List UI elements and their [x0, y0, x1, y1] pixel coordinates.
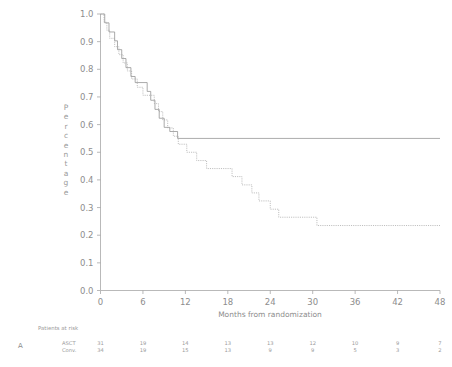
- x-tick-label: 12: [180, 297, 191, 307]
- risk-table-cell: 13: [225, 347, 232, 353]
- risk-table-row-labels: ASCTConv.: [62, 340, 77, 353]
- y-axis-title-char: e: [64, 112, 69, 121]
- y-axis-title-char: P: [64, 103, 69, 112]
- y-tick-label: 0.7: [80, 92, 94, 102]
- figure-root: Percentage 0.00.10.20.30.40.50.60.70.80.…: [0, 0, 452, 367]
- risk-table-cell: 19: [140, 340, 147, 346]
- risk-table-heading: Patients at risk: [38, 325, 79, 331]
- y-tick-label: 0.5: [80, 147, 94, 157]
- risk-table-cell: 9: [396, 340, 399, 346]
- risk-table-cell: 7: [438, 340, 441, 346]
- risk-table-cell: 19: [140, 347, 147, 353]
- y-tick-label: 0.8: [80, 64, 94, 74]
- risk-table-cell: 15: [182, 347, 189, 353]
- y-tick-label: 1.0: [80, 9, 94, 19]
- y-axis-title-char: r: [64, 122, 68, 131]
- kaplan-meier-chart: Percentage 0.00.10.20.30.40.50.60.70.80.…: [0, 0, 452, 367]
- x-tick-label: 24: [265, 297, 276, 307]
- risk-table-cell: 10: [352, 340, 359, 346]
- y-tick-label: 0.3: [80, 203, 94, 213]
- risk-table-cell: 14: [182, 340, 189, 346]
- risk-table-values: 31191413131210973419151399532: [97, 340, 441, 353]
- x-tick-label: 36: [350, 297, 361, 307]
- risk-table-cell: 3: [396, 347, 399, 353]
- x-tick-label: 30: [307, 297, 318, 307]
- risk-table-cell: 13: [225, 340, 232, 346]
- x-tick-label: 0: [98, 297, 103, 307]
- y-tick-label: 0.4: [80, 175, 94, 185]
- risk-table-row-label: Conv.: [62, 347, 77, 353]
- survival-curve-asct: [101, 14, 441, 138]
- panel-label: A: [18, 342, 23, 350]
- risk-table-row-label: ASCT: [62, 340, 76, 346]
- y-axis-title: Percentage: [64, 103, 69, 197]
- y-axis-title-char: n: [64, 150, 69, 159]
- y-axis-title-char: t: [65, 159, 68, 168]
- x-tick-label: 6: [140, 297, 145, 307]
- y-axis-title-char: e: [64, 141, 69, 150]
- risk-table-cell: 2: [438, 347, 441, 353]
- risk-table-cell: 9: [311, 347, 314, 353]
- x-axis-tick-marks: [101, 291, 441, 295]
- y-tick-label: 0.9: [80, 37, 94, 47]
- risk-table-cell: 13: [267, 340, 274, 346]
- y-axis-title-char: a: [64, 169, 69, 178]
- risk-table-cell: 5: [353, 347, 356, 353]
- y-axis-title-char: c: [64, 131, 68, 140]
- y-axis-title-char: e: [64, 188, 69, 197]
- y-tick-label: 0.6: [80, 120, 94, 130]
- survival-curve-conv: [101, 14, 441, 226]
- y-axis-title-char: g: [64, 178, 69, 187]
- x-axis-title-label: Months from randomization: [218, 310, 322, 319]
- x-tick-label: 48: [435, 297, 446, 307]
- y-tick-label: 0.2: [80, 230, 94, 240]
- risk-table-cell: 31: [97, 340, 104, 346]
- x-tick-label: 18: [222, 297, 233, 307]
- x-tick-label: 42: [392, 297, 403, 307]
- risk-table-cell: 12: [309, 340, 316, 346]
- x-axis-tick-labels: 0612182430364248: [98, 297, 446, 307]
- risk-table-cell: 9: [269, 347, 272, 353]
- y-axis-tick-labels: 0.00.10.20.30.40.50.60.70.80.91.0: [80, 9, 94, 296]
- y-axis-tick-marks: [97, 14, 101, 291]
- y-tick-label: 0.0: [80, 286, 94, 296]
- y-tick-label: 0.1: [80, 258, 94, 268]
- risk-table-cell: 34: [97, 347, 104, 353]
